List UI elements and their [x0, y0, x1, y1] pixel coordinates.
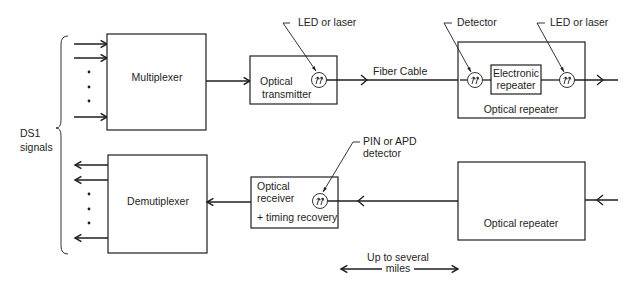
- demultiplexer-label: Demutiplexer: [127, 195, 189, 207]
- tx-led-callout-text: LED or laser: [298, 16, 357, 28]
- distance-indicator: Up to several miles: [341, 251, 458, 274]
- rx-callout-line2: detector: [363, 147, 401, 159]
- transmitter-label-line2: transmitter: [262, 88, 312, 100]
- electronic-repeater-line2: repeater: [496, 79, 536, 91]
- repeater-led-callout-text: LED or laser: [550, 16, 609, 28]
- distance-line2: miles: [386, 262, 411, 274]
- ds1-output-arrows: [75, 165, 108, 238]
- optical-transmitter-block: Optical transmitter: [250, 56, 337, 104]
- optical-repeater-bottom-block: Optical repeater: [458, 162, 585, 240]
- receiver-label-line3: + timing recovery: [257, 211, 338, 223]
- electronic-repeater-line1: Electronic: [493, 67, 539, 79]
- demultiplexer-block: Demutiplexer: [108, 155, 207, 253]
- optical-repeater-bottom-label: Optical repeater: [484, 217, 559, 229]
- fiber-cable-label: Fiber Cable: [373, 65, 427, 77]
- ds1-input-arrows: [74, 44, 107, 117]
- ds1-label-line2: signals: [20, 141, 53, 153]
- receiver-label-line1: Optical: [257, 180, 290, 192]
- transmitter-label-line1: Optical: [260, 75, 293, 87]
- ds1-brace: [56, 36, 68, 254]
- rx-callout-line1: PIN or APD: [363, 135, 417, 147]
- multiplexer-block: Multiplexer: [107, 34, 206, 130]
- detector-callout-text: Detector: [457, 16, 497, 28]
- optical-receiver-block: Optical receiver + timing recovery: [251, 177, 338, 228]
- ds1-label-line1: DS1: [20, 127, 41, 139]
- ds1-signals-label: DS1 signals: [20, 127, 53, 153]
- fiber-optic-link-diagram: DS1 signals Multiplexer Optical transmit…: [0, 0, 637, 291]
- receiver-label-line2: receiver: [257, 192, 295, 204]
- optical-repeater-top-label: Optical repeater: [484, 103, 559, 115]
- electronic-repeater-block: Electronic repeater: [491, 65, 541, 94]
- multiplexer-label: Multiplexer: [132, 71, 183, 83]
